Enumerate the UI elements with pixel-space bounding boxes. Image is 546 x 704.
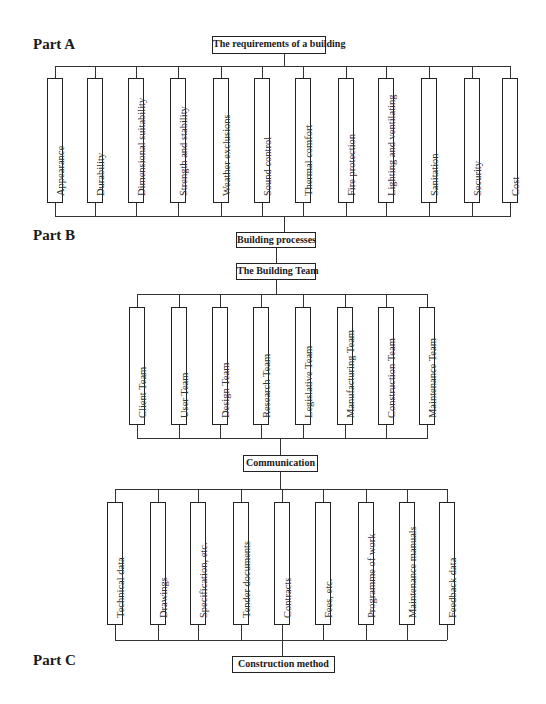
requirement-box: Dimensional suitability xyxy=(128,78,144,203)
connector xyxy=(366,625,367,640)
communication-node: Communication xyxy=(243,455,318,472)
connector xyxy=(158,625,159,640)
connector xyxy=(241,625,242,640)
communication-box: Contracts xyxy=(274,502,290,625)
requirements-node: The requirements of a building xyxy=(212,36,326,54)
part-a-label: Part A xyxy=(33,36,75,53)
team-box: Manufacturing Team xyxy=(337,307,353,425)
team-box: Research Team xyxy=(253,307,269,425)
team-box: Client Team xyxy=(129,307,145,425)
connector xyxy=(345,425,346,438)
connector xyxy=(282,489,283,502)
communications-bottom-bus xyxy=(115,640,447,641)
requirements-top-bus xyxy=(55,66,511,67)
connector xyxy=(386,66,387,78)
connector xyxy=(472,66,473,78)
connector xyxy=(346,66,347,78)
connector xyxy=(386,425,387,438)
requirement-box: Appearance xyxy=(47,78,63,203)
requirements-bottom-bus xyxy=(55,216,511,217)
requirement-box: Fire protection xyxy=(338,78,354,203)
communication-box: Tender documents xyxy=(233,502,249,625)
requirement-box: Weather exclusions xyxy=(213,78,229,203)
communication-box: Technical data xyxy=(107,502,123,625)
connector xyxy=(303,66,304,78)
requirement-box: Thermal comfort xyxy=(295,78,311,203)
connector xyxy=(407,625,408,640)
connector xyxy=(115,489,116,502)
connector xyxy=(221,66,222,78)
connector xyxy=(407,489,408,502)
connector xyxy=(429,203,430,216)
requirement-box: Security xyxy=(464,78,480,203)
construction-method-node: Construction method xyxy=(232,656,335,673)
connector xyxy=(510,66,511,78)
requirement-box: Strength and stability xyxy=(170,78,186,203)
requirement-box: Lighting and ventilating xyxy=(378,78,394,203)
connector xyxy=(198,625,199,640)
connector xyxy=(262,66,263,78)
communication-box: Maintenance manuals xyxy=(399,502,415,625)
communication-box: Drawings xyxy=(150,502,166,625)
connector xyxy=(261,425,262,438)
connector xyxy=(137,425,138,438)
connector xyxy=(55,203,56,216)
connector xyxy=(95,203,96,216)
connector xyxy=(284,216,285,232)
communication-box: Fees, etc. xyxy=(315,502,331,625)
team-box: Maintenance Team xyxy=(419,307,435,425)
connector xyxy=(427,425,428,438)
connector xyxy=(137,294,138,307)
teams-bottom-bus xyxy=(137,438,428,439)
team-box: User Team xyxy=(171,307,187,425)
connector xyxy=(472,203,473,216)
connector xyxy=(276,280,277,294)
communication-box: Specification, etc. xyxy=(190,502,206,625)
requirement-box: Sound control xyxy=(254,78,270,203)
connector xyxy=(386,294,387,307)
connector xyxy=(282,625,283,640)
connector xyxy=(198,489,199,502)
connector xyxy=(427,294,428,307)
connector xyxy=(323,489,324,502)
communication-box: Feedback data xyxy=(439,502,455,625)
connector xyxy=(241,489,242,502)
connector xyxy=(276,248,277,263)
connector xyxy=(261,294,262,307)
connector xyxy=(510,203,511,216)
requirement-box: Cost xyxy=(502,78,518,203)
requirement-box: Sanitation xyxy=(421,78,437,203)
part-c-label: Part C xyxy=(33,652,76,669)
building-team-node: The Building Team xyxy=(236,263,316,280)
connector xyxy=(429,66,430,78)
building-processes-node: Building processes xyxy=(236,232,316,248)
connector xyxy=(366,489,367,502)
connector xyxy=(303,294,304,307)
connector xyxy=(280,472,281,489)
connector xyxy=(179,294,180,307)
connector xyxy=(158,489,159,502)
connector xyxy=(303,425,304,438)
communication-box: Programme of work xyxy=(358,502,374,625)
connector xyxy=(262,203,263,216)
connector xyxy=(282,640,283,656)
part-b-label: Part B xyxy=(33,227,75,244)
connector xyxy=(178,66,179,78)
connector xyxy=(345,294,346,307)
requirement-box: Durability xyxy=(87,78,103,203)
teams-top-bus xyxy=(137,294,428,295)
connector xyxy=(447,625,448,640)
connector xyxy=(55,66,56,78)
connector xyxy=(280,438,281,455)
connector xyxy=(386,203,387,216)
connector xyxy=(179,425,180,438)
connector xyxy=(115,625,116,640)
connector xyxy=(303,203,304,216)
connector xyxy=(447,489,448,502)
team-box: Construction Team xyxy=(378,307,394,425)
connector xyxy=(95,66,96,78)
connector xyxy=(221,203,222,216)
connector xyxy=(220,294,221,307)
communications-top-bus xyxy=(115,489,447,490)
connector xyxy=(178,203,179,216)
